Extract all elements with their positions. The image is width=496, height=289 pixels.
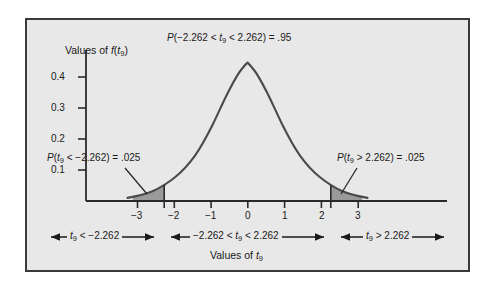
- x-tick-label-0: −3: [131, 211, 142, 221]
- right-tail-probability-annotation: P(t9 > 2.262) = .025: [337, 153, 425, 163]
- interval-label-right: t9 > 2.262: [363, 231, 412, 241]
- x-tick-label-4: 1: [282, 211, 288, 221]
- y-tick-label-0: 0.4: [51, 72, 65, 82]
- interval-label-center: −2.262 < t9 < 2.262: [190, 231, 282, 241]
- x-axis-title: Values of t9: [210, 250, 263, 261]
- interval-label-left: t9 < −2.262: [67, 231, 122, 241]
- y-tick-label-2: 0.2: [51, 134, 65, 144]
- y-axis-title: Values of f(t9): [65, 45, 128, 56]
- center-probability-annotation: P(−2.262 < t9 < 2.262) = .95: [167, 33, 291, 43]
- x-tick-label-6: 3: [355, 211, 361, 221]
- right-tail-leader-line: [341, 168, 357, 194]
- y-tick-label-1: 0.3: [51, 103, 65, 113]
- left-tail-leader-line: [125, 168, 147, 194]
- y-tick-label-3: 0.1: [51, 165, 65, 175]
- x-tick-label-5: 2: [319, 211, 325, 221]
- left-tail-probability-annotation: P(t9 < −2.262) = .025: [47, 153, 140, 163]
- x-tick-label-2: −1: [205, 211, 216, 221]
- x-tick-label-3: 0: [245, 211, 251, 221]
- x-tick-label-1: −2: [168, 211, 179, 221]
- figure-frame: Values of f(t9) 0.4 0.3 0.2 0.1 −3 −2 −1…: [25, 18, 470, 272]
- t-distribution-curve: [128, 63, 368, 198]
